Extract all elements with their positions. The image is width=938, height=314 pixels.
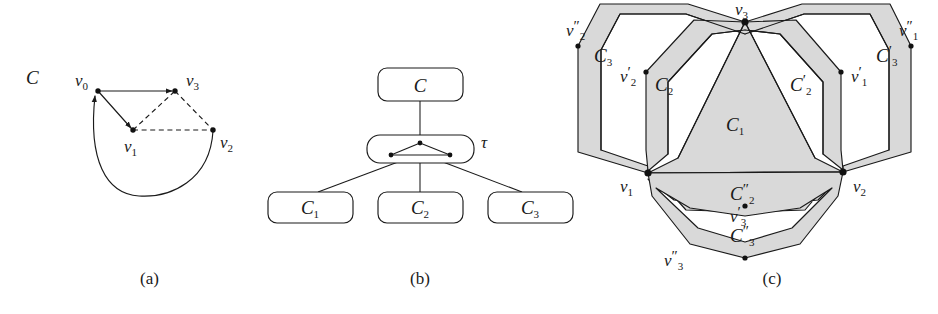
panel-c-vertex-v2-prime	[643, 69, 648, 74]
panel-c-label-v1-double-prime: v″1	[899, 18, 918, 42]
panel-b-node-c3[interactable]: C3	[488, 192, 573, 223]
panel-a-vertex-v0	[95, 88, 100, 93]
panel-b-node-tau[interactable]: τ	[367, 133, 488, 163]
panel-b-node-root-label: C	[414, 75, 427, 96]
panel-c-vertex-v1-prime	[838, 69, 843, 74]
figure-container: C v0 v3 v1 v2 (a)	[0, 0, 938, 314]
panel-a-label-v0: v0	[75, 71, 89, 92]
panel-c-label-v2-double-prime: v″2	[566, 18, 585, 42]
panel-b-edge-middle-c1	[318, 162, 398, 192]
caption-b: (b)	[410, 269, 430, 288]
panel-c-vertex-v3-double-prime	[742, 255, 747, 260]
panel-c-vertex-v2	[839, 168, 846, 175]
panel-a-label-v1: v1	[124, 137, 137, 158]
panel-a-label-v3: v3	[186, 71, 200, 92]
panel-a: C v0 v3 v1 v2 (a)	[26, 67, 233, 288]
panel-a-vertex-v3	[172, 88, 177, 93]
panel-b-edge-middle-c3	[443, 162, 522, 192]
panel-a-label-v2: v2	[220, 133, 233, 154]
panel-b-node-c2[interactable]: C2	[378, 192, 463, 223]
panel-c-vertex-v1	[644, 169, 651, 176]
panel-c-label-v2: v2	[853, 177, 866, 198]
panel-b-node-root[interactable]: C	[378, 68, 463, 101]
panel-c-label-v2-prime: v′2	[620, 64, 636, 88]
panel-a-vertex-v2	[210, 127, 215, 132]
panel-a-dashed-edge-v3-v2	[175, 91, 213, 130]
panel-b-node-c1[interactable]: C1	[268, 192, 353, 223]
panel-a-dashed-edge-v1-v3	[133, 91, 175, 130]
panel-c-label-v3: v3	[735, 0, 749, 21]
caption-a: (a)	[140, 269, 159, 288]
panel-c-label-C2-prime: C′2	[790, 72, 811, 97]
panel-c-vertex-v3-prime	[742, 203, 747, 208]
panel-a-vertex-v1	[130, 127, 135, 132]
panel-a-graph-label: C	[26, 67, 39, 88]
panel-c-label-v3-double-prime: v″3	[664, 248, 684, 272]
panel-a-edge-v0-v1	[98, 91, 131, 128]
panel-c-label-C3: C3	[594, 45, 613, 68]
caption-c: (c)	[763, 269, 782, 288]
panel-c: C1 C2 C′2 C3 C′3 C″2 C″3 v3 v1 v2 v″2 v″…	[566, 0, 918, 288]
panel-b: C τ C1	[268, 68, 573, 288]
panel-b-node-tau-box	[367, 135, 474, 163]
panel-c-label-v1-prime: v′1	[851, 64, 867, 88]
panel-c-label-v1: v1	[620, 177, 633, 198]
panel-b-node-tau-label: τ	[481, 133, 488, 152]
figure-svg: C v0 v3 v1 v2 (a)	[0, 0, 938, 314]
panel-c-vertex-v1-double-prime	[908, 43, 913, 48]
panel-c-vertex-v2-double-prime	[575, 43, 580, 48]
